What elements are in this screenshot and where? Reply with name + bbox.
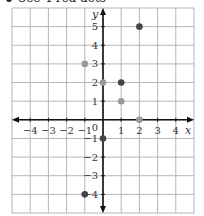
y-tick-label: 2 [92, 77, 98, 88]
y-tick-label: −1 [83, 133, 98, 144]
x-axis-right-arrow-icon [187, 117, 194, 123]
y-tick-label: −3 [83, 170, 98, 181]
x-axis-left-arrow-icon [12, 117, 19, 123]
x-tick-label: 2 [136, 125, 142, 136]
origin-label: 0 [92, 122, 98, 133]
data-point [136, 117, 143, 124]
x-tick-label: −3 [41, 125, 56, 136]
data-point [118, 98, 125, 105]
x-tick-label: 4 [173, 125, 179, 136]
data-point [100, 135, 107, 142]
x-tick-label: −4 [23, 125, 38, 136]
x-tick-label: 1 [118, 125, 124, 136]
coordinate-plane: −4−3−2−11234−4−3−2−1123450xy [0, 0, 204, 216]
y-axis-down-arrow-icon [100, 206, 106, 213]
data-point [82, 61, 89, 68]
data-point [100, 79, 107, 86]
y-axis-up-arrow-icon [100, 8, 106, 15]
x-tick-label: 3 [154, 125, 160, 136]
x-tick-label: −2 [59, 125, 74, 136]
y-tick-label: 3 [92, 58, 98, 69]
data-point [136, 23, 143, 30]
y-tick-label: 4 [92, 40, 98, 51]
x-axis-label: x [185, 124, 192, 137]
data-point [118, 79, 125, 86]
y-tick-label: 1 [92, 96, 98, 107]
data-point [82, 191, 89, 198]
y-tick-label: −2 [83, 152, 98, 163]
y-axis-label: y [91, 8, 99, 21]
y-tick-label: 5 [92, 21, 98, 32]
